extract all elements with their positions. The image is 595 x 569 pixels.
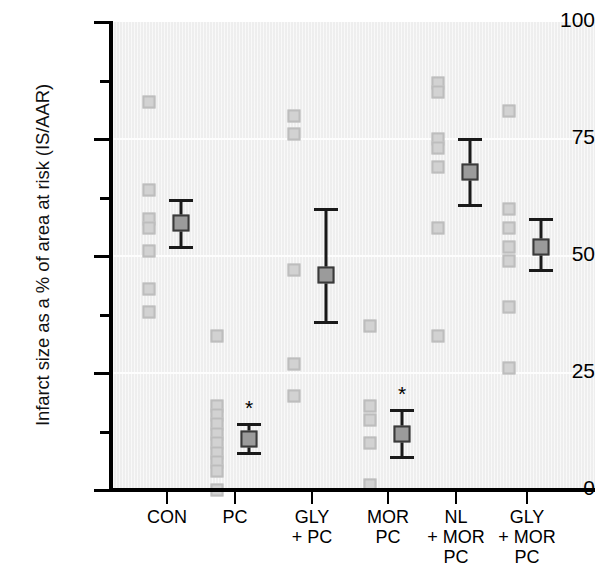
x-tick-1 [234, 491, 236, 504]
error-bar-cap-upper [169, 199, 193, 202]
error-bar-cap-lower [390, 456, 414, 459]
error-bar-cap-lower [237, 452, 261, 455]
data-point [503, 221, 516, 234]
mean-marker [318, 266, 335, 283]
y-minor-tick-87.5 [100, 80, 110, 83]
plot-area: ** [113, 22, 595, 490]
data-point [503, 240, 516, 253]
y-tick-label-100: 100 [539, 8, 595, 32]
data-point [432, 329, 445, 342]
mean-marker [241, 430, 258, 447]
data-point [143, 184, 156, 197]
mean-marker [173, 215, 190, 232]
x-group-label-0: CON [147, 507, 187, 527]
x-group-label-line: + MOR [427, 527, 485, 547]
x-tick-5 [526, 491, 528, 504]
mean-marker [462, 163, 479, 180]
x-tick-2 [311, 491, 313, 504]
error-bar-cap-lower [169, 246, 193, 249]
data-point [288, 109, 301, 122]
error-bar-cap-lower [529, 269, 553, 272]
x-group-label-2: GLY+ PC [292, 507, 333, 547]
y-tick-50 [94, 255, 110, 258]
error-bar-cap-upper [314, 208, 338, 211]
x-group-label-line: NL [427, 507, 485, 527]
data-point [288, 264, 301, 277]
y-tick-label-75: 75 [539, 125, 595, 149]
data-point [503, 203, 516, 216]
data-point [143, 282, 156, 295]
x-group-label-line: PC [367, 527, 409, 547]
error-bar-cap-upper [237, 423, 261, 426]
x-group-label-line: PC [427, 547, 485, 567]
gridline-50 [113, 255, 595, 257]
data-point [143, 306, 156, 319]
data-point [432, 161, 445, 174]
data-point [503, 254, 516, 267]
gridline-75 [113, 138, 595, 140]
data-point [503, 362, 516, 375]
error-bar-cap-upper [529, 218, 553, 221]
mean-marker [533, 238, 550, 255]
x-group-label-line: PC [498, 547, 556, 567]
data-point [143, 95, 156, 108]
x-group-label-line: CON [147, 507, 187, 527]
gridline-25 [113, 372, 595, 374]
x-tick-0 [166, 491, 168, 504]
significance-asterisk: * [398, 388, 406, 400]
data-point [143, 245, 156, 258]
data-point [432, 221, 445, 234]
y-tick-100 [94, 21, 110, 24]
x-group-label-line: GLY [498, 507, 556, 527]
x-axis-line [109, 488, 595, 492]
data-point [211, 329, 224, 342]
data-point [288, 128, 301, 141]
x-group-label-line: GLY [292, 507, 333, 527]
data-point [364, 320, 377, 333]
error-bar-cap-upper [390, 409, 414, 412]
infarct-size-scatter-figure: Infarct size as a % of area at risk (IS/… [0, 0, 595, 569]
y-tick-label-25: 25 [539, 359, 595, 383]
x-group-label-line: + PC [292, 527, 333, 547]
y-axis-title: Infarct size as a % of area at risk (IS/… [32, 20, 54, 490]
error-bar-cap-lower [458, 204, 482, 207]
data-point [143, 221, 156, 234]
data-point [432, 86, 445, 99]
y-tick-75 [94, 138, 110, 141]
y-minor-tick-37.5 [100, 314, 110, 317]
x-group-label-line: MOR [367, 507, 409, 527]
data-point [288, 357, 301, 370]
data-point [364, 399, 377, 412]
data-point [432, 142, 445, 155]
x-group-label-line: PC [222, 507, 247, 527]
y-minor-tick-62.5 [100, 197, 110, 200]
y-minor-tick-12.5 [100, 431, 110, 434]
y-tick-25 [94, 372, 110, 375]
y-tick-label-0: 0 [539, 476, 595, 500]
data-point [364, 413, 377, 426]
x-group-label-5: GLY+ MORPC [498, 507, 556, 567]
error-bar-cap-lower [314, 321, 338, 324]
data-point [503, 301, 516, 314]
data-point [288, 390, 301, 403]
data-point [211, 465, 224, 478]
x-group-label-3: MORPC [367, 507, 409, 547]
significance-asterisk: * [245, 402, 253, 414]
x-group-label-4: NL+ MORPC [427, 507, 485, 567]
data-point [364, 437, 377, 450]
x-group-label-line: + MOR [498, 527, 556, 547]
x-tick-4 [455, 491, 457, 504]
y-tick-0 [94, 489, 110, 492]
x-group-label-1: PC [222, 507, 247, 527]
error-bar-cap-upper [458, 138, 482, 141]
mean-marker [394, 425, 411, 442]
x-tick-3 [387, 491, 389, 504]
data-point [503, 104, 516, 117]
